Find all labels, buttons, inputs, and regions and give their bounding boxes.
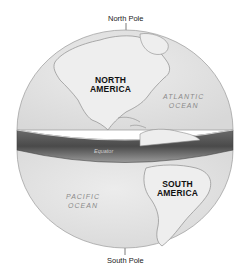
north-pole-label: North Pole <box>108 14 143 23</box>
globe-diagram <box>0 0 244 270</box>
north-america-label: NORTH AMERICA <box>90 76 131 94</box>
pacific-ocean-label: PACIFIC OCEAN <box>66 192 100 210</box>
south-pole-label: South Pole <box>107 256 144 265</box>
equator-label: Equator <box>94 148 113 154</box>
south-america-label: SOUTH AMERICA <box>157 180 198 198</box>
atlantic-ocean-label: ATLANTIC OCEAN <box>163 92 204 110</box>
